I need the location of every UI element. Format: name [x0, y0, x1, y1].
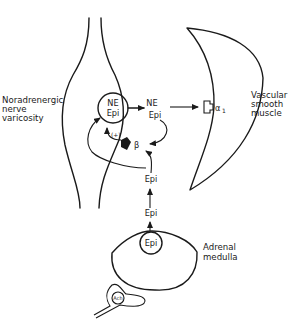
vesicle-epi-text: Epi	[107, 108, 120, 118]
svg-text:varicosity: varicosity	[2, 113, 44, 123]
circulating-epi-arrow	[146, 151, 151, 173]
svg-text:medulla: medulla	[203, 252, 238, 262]
released-epi-text: Epi	[149, 110, 162, 120]
epi-to-beta-arrow	[150, 120, 167, 144]
svg-text:muscle: muscle	[251, 108, 282, 118]
preganglionic-terminal-outline	[94, 284, 145, 318]
nerve-label: Noradrenergic nerve varicosity	[2, 95, 64, 123]
beta-symbol: β	[134, 140, 139, 150]
positive-feedback-sign: (+)	[111, 131, 121, 138]
muscle-label: Vascular smooth muscle	[251, 90, 288, 118]
circulating-epi-lower: Epi	[145, 208, 158, 218]
alpha-symbol: α	[215, 103, 220, 113]
beta-receptor-block	[121, 137, 131, 150]
released-ne-text: NE	[146, 98, 157, 108]
alpha-subscript: 1	[222, 107, 226, 114]
adrenal-vesicle-epi: Epi	[145, 238, 158, 248]
adrenal-label: Adrenal medulla	[203, 242, 238, 262]
svg-text:Adrenal: Adrenal	[203, 242, 236, 252]
ach-text: Ach	[113, 295, 122, 301]
adrenergic-signaling-diagram: NE Epi NE Epi α 1 Noradrenergic nerve va…	[0, 0, 306, 329]
vesicle-ne-text: NE	[107, 98, 118, 108]
alpha1-receptor: α 1	[204, 101, 226, 114]
circulating-epi-upper: Epi	[145, 174, 158, 184]
